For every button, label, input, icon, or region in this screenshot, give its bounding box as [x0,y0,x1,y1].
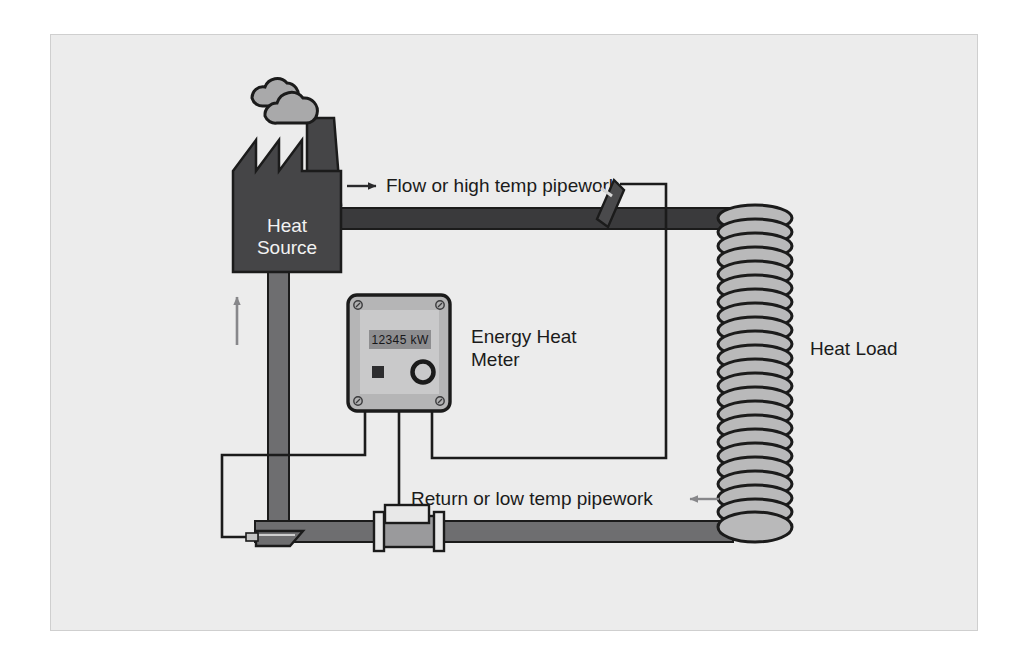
flow-meter-head [385,505,429,523]
inline-flow-meter [374,505,444,551]
energy-meter-label-line1: Energy Heat [471,326,577,347]
return-riser-pipe [268,272,289,542]
return-main-pipe [255,521,733,542]
heat-load-coil [718,205,792,542]
meter-button[interactable] [372,366,384,378]
flow-main-pipe [340,208,740,229]
flange-right [434,512,444,551]
energy-meter-label-line2: Meter [471,349,520,370]
flow-pipework-label: Flow or high temp pipework [386,175,619,196]
heat-load-label: Heat Load [810,338,898,359]
flange-left [374,512,384,551]
return-sensor-wire [222,411,365,537]
smoke-clouds [252,79,317,124]
return-temperature-probe [246,531,303,546]
meter-display-value: 12345 kW [371,333,429,347]
return-pipework-label: Return or low temp pipework [411,488,653,509]
heat-source-label-line1: Heat [267,215,308,236]
schematic-svg: Heat Source Flow or high temp pipework R… [0,0,1027,671]
energy-heat-meter[interactable]: 12345 kW [348,295,450,411]
heat-source-label-line2: Source [257,237,317,258]
meter-dial[interactable] [413,362,434,383]
diagram-canvas: Heat Source Flow or high temp pipework R… [0,0,1027,671]
